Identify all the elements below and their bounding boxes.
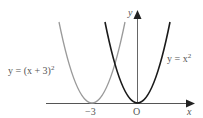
- origin-label: O: [133, 106, 140, 117]
- y-axis-label: y: [127, 7, 133, 18]
- tick-label-neg3: −3: [85, 106, 96, 117]
- y-axis-arrow-icon: [134, 10, 142, 19]
- x-axis-label: x: [186, 106, 192, 117]
- curve-label-shifted-parabola: y = (x + 3)2: [8, 64, 55, 77]
- curve-label-base-parabola: y = x2: [167, 52, 192, 64]
- graph-canvas: y x O −3 y = (x + 3)2 y = x2: [0, 0, 203, 118]
